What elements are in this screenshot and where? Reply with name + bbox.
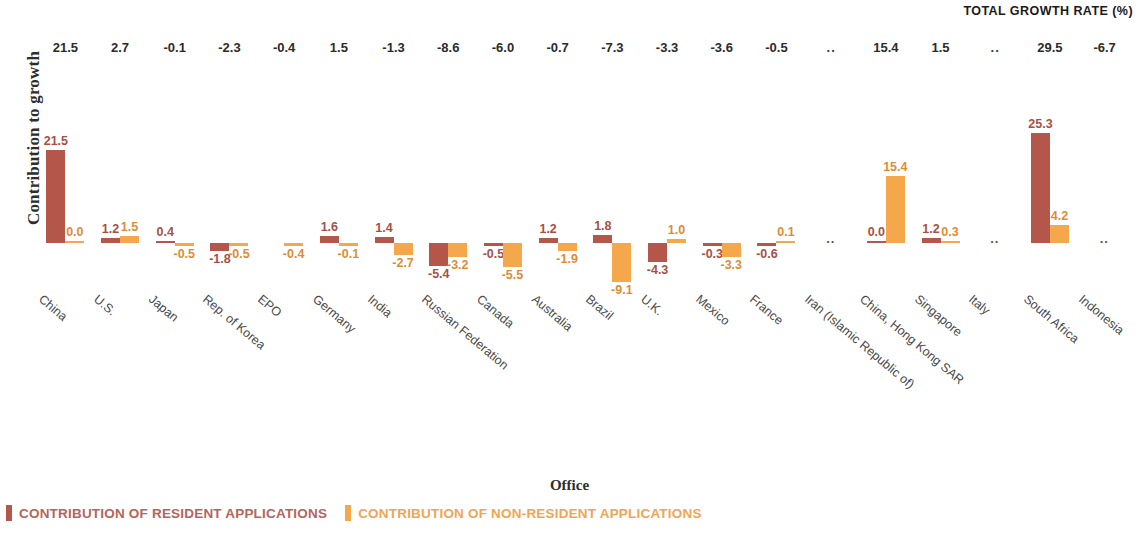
bar-non-resident bbox=[886, 176, 905, 243]
bar-resident bbox=[757, 243, 776, 246]
bar-value-label: 21.5 bbox=[35, 134, 77, 148]
bar-value-label: 15.4 bbox=[874, 160, 916, 174]
total-growth-rate-value: 2.7 bbox=[93, 40, 148, 55]
bar-value-label: -1.9 bbox=[546, 252, 588, 266]
category-label: South Africa bbox=[1021, 292, 1082, 346]
bar-non-resident bbox=[448, 243, 467, 257]
bar-non-resident bbox=[941, 241, 960, 244]
legend-item-resident: CONTRIBUTION OF RESIDENT APPLICATIONS bbox=[6, 505, 327, 521]
chart-container: Contribution to growth TOTAL GROWTH RATE… bbox=[0, 0, 1139, 533]
category-label: U.K. bbox=[638, 292, 666, 318]
bar-value-label: 0.3 bbox=[929, 225, 971, 239]
category-label: Mexico bbox=[693, 292, 732, 328]
total-growth-rate-value: -2.3 bbox=[202, 40, 257, 55]
category-axis: ChinaU.S.JapanRep. of KoreaEPOGermanyInd… bbox=[40, 288, 1134, 398]
category-label: Singapore bbox=[912, 292, 965, 339]
total-growth-rate-value: 29.5 bbox=[1023, 40, 1078, 55]
total-growth-rate-value: .. bbox=[968, 40, 1023, 55]
plot-area: 21.50.01.21.50.4-0.5-1.8-0.5-0.41.6-0.11… bbox=[40, 70, 1134, 285]
bar-non-resident bbox=[503, 243, 522, 267]
total-growth-rate-value: 1.5 bbox=[913, 40, 968, 55]
category-label: Canada bbox=[474, 292, 517, 331]
legend-swatch-resident-icon bbox=[6, 505, 12, 521]
bar-value-label: -4.3 bbox=[637, 263, 679, 277]
category-label: U.S. bbox=[91, 292, 119, 318]
chart-legend: CONTRIBUTION OF RESIDENT APPLICATIONS CO… bbox=[6, 505, 702, 521]
total-growth-rate-value: -0.5 bbox=[749, 40, 804, 55]
bar-non-resident bbox=[120, 236, 139, 243]
bar-value-label: -0.5 bbox=[218, 247, 260, 261]
bar-value-label: 4.2 bbox=[1038, 209, 1080, 223]
bar-resident bbox=[320, 236, 339, 243]
category-label: Iran (Islamic Republic of) bbox=[802, 292, 917, 392]
total-growth-rate-value: .. bbox=[804, 40, 859, 55]
total-growth-rate-value: 1.5 bbox=[312, 40, 367, 55]
bar-resident bbox=[375, 237, 394, 243]
bar-value-label: 0.1 bbox=[765, 225, 807, 239]
bar-value-label: 1.6 bbox=[308, 220, 350, 234]
total-growth-rate-value: -0.7 bbox=[530, 40, 585, 55]
category-label: Australia bbox=[529, 292, 575, 334]
total-growth-rate-value: 15.4 bbox=[859, 40, 914, 55]
bar-resident bbox=[867, 241, 886, 244]
total-growth-rate-value: -3.3 bbox=[640, 40, 695, 55]
total-growth-rate-value: -6.0 bbox=[476, 40, 531, 55]
bar-non-resident bbox=[776, 241, 795, 244]
category-label: Brazil bbox=[583, 292, 616, 323]
bar-value-label: 0.4 bbox=[144, 225, 186, 239]
bar-non-resident bbox=[667, 239, 686, 243]
bar-value-label: 1.4 bbox=[363, 221, 405, 235]
legend-label-resident: CONTRIBUTION OF RESIDENT APPLICATIONS bbox=[19, 506, 327, 521]
category-label: Indonesia bbox=[1076, 292, 1127, 338]
bar-value-label: -0.4 bbox=[273, 247, 315, 261]
legend-label-non-resident: CONTRIBUTION OF NON-RESIDENT APPLICATION… bbox=[358, 506, 701, 521]
bar-value-label: -5.5 bbox=[491, 268, 533, 282]
no-data-marker: .. bbox=[826, 231, 835, 246]
total-growth-rate-row: 21.52.7-0.1-2.3-0.41.5-1.3-8.6-6.0-0.7-7… bbox=[40, 40, 1134, 60]
total-growth-rate-value: -6.7 bbox=[1077, 40, 1132, 55]
bar-non-resident bbox=[722, 243, 741, 257]
total-growth-rate-value: -3.6 bbox=[694, 40, 749, 55]
bar-value-label: -0.6 bbox=[746, 247, 788, 261]
bar-resident bbox=[101, 238, 120, 243]
category-label: China bbox=[36, 292, 70, 324]
bar-resident bbox=[703, 243, 722, 246]
total-growth-rate-value: 21.5 bbox=[38, 40, 93, 55]
category-label: Japan bbox=[146, 292, 181, 325]
bar-value-label: 1.0 bbox=[656, 223, 698, 237]
total-growth-rate-value: -7.3 bbox=[585, 40, 640, 55]
bar-non-resident bbox=[558, 243, 577, 251]
total-growth-rate-value: -1.3 bbox=[366, 40, 421, 55]
category-label: EPO bbox=[255, 292, 284, 320]
bar-resident bbox=[593, 235, 612, 243]
bar-resident bbox=[484, 243, 503, 246]
bar-resident bbox=[1031, 133, 1050, 243]
bar-non-resident bbox=[612, 243, 631, 282]
category-label: France bbox=[747, 292, 786, 328]
bar-resident bbox=[539, 238, 558, 243]
bar-non-resident bbox=[1050, 225, 1069, 243]
total-growth-rate-header: TOTAL GROWTH RATE (%) bbox=[963, 4, 1133, 18]
no-data-marker: .. bbox=[990, 231, 999, 246]
bar-non-resident bbox=[65, 241, 84, 244]
category-label: Italy bbox=[966, 292, 993, 317]
bar-non-resident bbox=[175, 243, 194, 246]
category-label: Germany bbox=[310, 292, 358, 336]
x-axis-title: Office bbox=[0, 477, 1139, 494]
total-growth-rate-value: -0.4 bbox=[257, 40, 312, 55]
category-label: India bbox=[365, 292, 395, 320]
bar-non-resident bbox=[339, 243, 358, 246]
total-growth-rate-value: -0.1 bbox=[147, 40, 202, 55]
bar-non-resident bbox=[229, 243, 248, 246]
bar-value-label: 1.8 bbox=[582, 219, 624, 233]
bar-value-label: -0.1 bbox=[327, 247, 369, 261]
no-data-marker: .. bbox=[1100, 231, 1109, 246]
category-label: China, Hong Kong SAR bbox=[857, 292, 967, 387]
bar-resident bbox=[156, 241, 175, 244]
bar-non-resident bbox=[284, 243, 303, 246]
legend-item-non-resident: CONTRIBUTION OF NON-RESIDENT APPLICATION… bbox=[345, 505, 701, 521]
bar-resident bbox=[922, 238, 941, 243]
total-growth-rate-value: -8.6 bbox=[421, 40, 476, 55]
bar-resident bbox=[648, 243, 667, 262]
bar-value-label: 1.2 bbox=[527, 222, 569, 236]
